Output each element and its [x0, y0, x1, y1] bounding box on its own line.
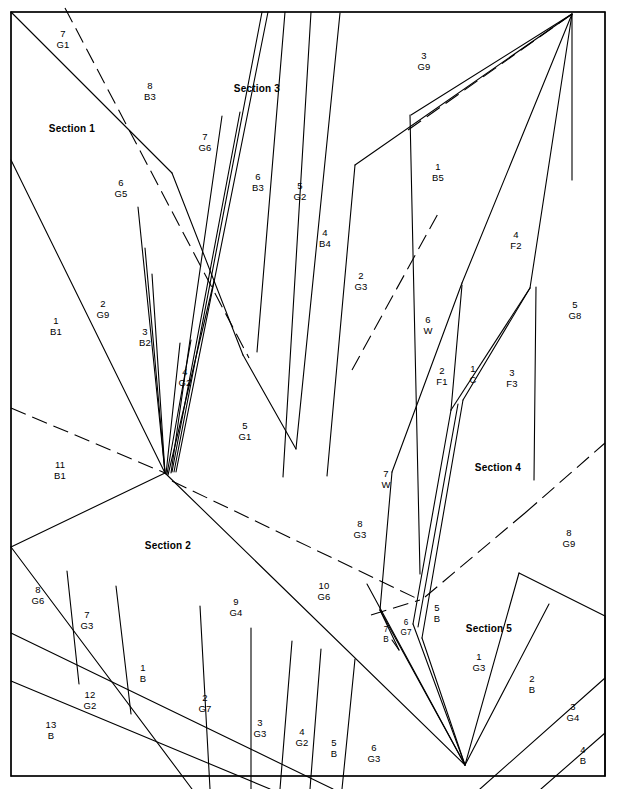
parcel-label: 10G6: [318, 580, 331, 602]
parcel-code: G3: [473, 662, 486, 673]
parcel-code: B2: [139, 337, 151, 348]
parcel-code: B4: [319, 238, 331, 249]
parcel-number: 5: [239, 420, 252, 431]
parcel-code: G3: [355, 281, 368, 292]
parcel-code: G3: [254, 728, 267, 739]
parcel-label: 6W: [423, 314, 432, 336]
parcel-number: 4: [179, 366, 192, 377]
parcel-code: G2: [84, 700, 97, 711]
parcel-label: 8G3: [354, 518, 367, 540]
parcel-number: 6: [400, 618, 411, 628]
parcel-label: 5B: [331, 737, 337, 759]
canvas-background: [0, 0, 618, 789]
parcel-number: 13: [46, 719, 57, 730]
parcel-label: 6G7: [400, 618, 411, 637]
parcel-label: 5G1: [239, 420, 252, 442]
parcel-label: 6G3: [368, 742, 381, 764]
parcel-label: 1B: [140, 662, 146, 684]
parcel-code: B1: [50, 326, 62, 337]
parcel-code: G4: [230, 607, 243, 618]
parcel-number: 4: [296, 726, 309, 737]
parcel-number: 6: [115, 177, 128, 188]
parcel-label: 13B: [46, 719, 57, 741]
section-label-4: Section 4: [475, 462, 521, 473]
parcel-number: 9: [230, 596, 243, 607]
parcel-code: B3: [144, 91, 156, 102]
parcel-number: 1: [50, 315, 62, 326]
parcel-number: 1: [470, 363, 477, 374]
parcel-number: 8: [32, 584, 45, 595]
parcel-label: 2F1: [436, 365, 447, 387]
parcel-number: 6: [252, 171, 264, 182]
parcel-number: 7: [81, 609, 94, 620]
parcel-code: G3: [81, 620, 94, 631]
parcel-code: G2: [294, 191, 307, 202]
parcel-label: 7G1: [57, 28, 70, 50]
parcel-label: 4F2: [510, 229, 521, 251]
parcel-code: G5: [115, 188, 128, 199]
parcel-code: G6: [318, 591, 331, 602]
parcel-number: 3: [567, 701, 580, 712]
parcel-number: 6: [423, 314, 432, 325]
parcel-label: 1G3: [473, 651, 486, 673]
parcel-label: 3G9: [418, 50, 431, 72]
parcel-number: 2: [97, 298, 110, 309]
parcel-code: G8: [569, 310, 582, 321]
parcel-label: 4G2: [296, 726, 309, 748]
section-label-1: Section 1: [49, 123, 95, 134]
parcel-code: B: [331, 748, 337, 759]
parcel-label: 1B5: [432, 161, 444, 183]
parcel-code: B: [140, 673, 146, 684]
parcel-number: 7: [57, 28, 70, 39]
parcel-code: B: [580, 755, 586, 766]
parcel-label: 7W: [381, 468, 390, 490]
parcel-label: 7G6: [199, 131, 212, 153]
parcel-number: 5: [331, 737, 337, 748]
parcel-code: F2: [510, 240, 521, 251]
parcel-number: 5: [434, 602, 440, 613]
parcel-number: 7: [383, 625, 389, 635]
parcel-number: 11: [54, 459, 66, 470]
parcel-label: 5B: [434, 602, 440, 624]
parcel-label: 2G7: [199, 692, 212, 714]
parcel-number: 8: [144, 80, 156, 91]
parcel-label: 2G9: [97, 298, 110, 320]
parcel-code: W: [381, 479, 390, 490]
diagram-root: 7G18B37G66B35G23G91B54B44F26G52G35G81B12…: [0, 0, 618, 789]
parcel-label: 4B: [580, 744, 586, 766]
parcel-code: G6: [32, 595, 45, 606]
parcel-number: 12: [84, 689, 97, 700]
parcel-code: G2: [296, 737, 309, 748]
parcel-number: 3: [506, 367, 517, 378]
parcel-code: G3: [368, 753, 381, 764]
parcel-code: B1: [54, 470, 66, 481]
parcel-number: 7: [381, 468, 390, 479]
parcel-number: 4: [510, 229, 521, 240]
parcel-label: 1C: [470, 363, 477, 385]
parcel-code: G4: [567, 712, 580, 723]
parcel-number: 8: [354, 518, 367, 529]
parcel-code: C: [470, 374, 477, 385]
parcel-label: 2B: [529, 673, 535, 695]
parcel-number: 3: [418, 50, 431, 61]
parcel-code: B3: [252, 182, 264, 193]
parcel-code: F3: [506, 378, 517, 389]
parcel-number: 6: [368, 742, 381, 753]
parcel-code: G6: [199, 142, 212, 153]
parcel-label: 8G6: [32, 584, 45, 606]
parcel-code: F1: [436, 376, 447, 387]
parcel-code: G9: [418, 61, 431, 72]
parcel-label: 3G4: [567, 701, 580, 723]
parcel-number: 1: [432, 161, 444, 172]
parcel-code: G3: [354, 529, 367, 540]
diagram-canvas: [0, 0, 618, 789]
parcel-label: 6B3: [252, 171, 264, 193]
section-label-5: Section 5: [466, 623, 512, 634]
parcel-code: B: [529, 684, 535, 695]
parcel-number: 5: [569, 299, 582, 310]
parcel-code: G7: [400, 627, 411, 637]
parcel-label: 3G3: [254, 717, 267, 739]
parcel-number: 4: [580, 744, 586, 755]
parcel-label: 1B1: [50, 315, 62, 337]
parcel-number: 10: [318, 580, 331, 591]
